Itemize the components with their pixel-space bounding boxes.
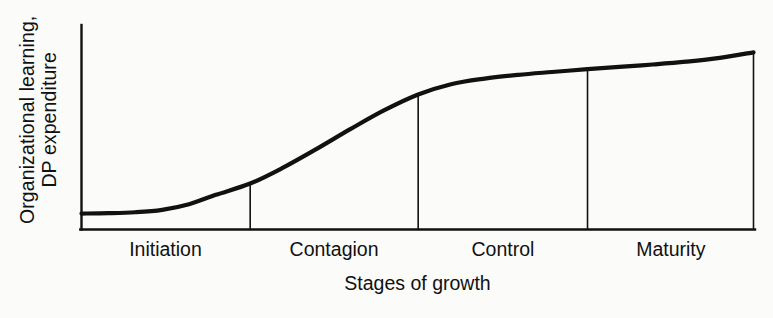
stage-label-contagion: Contagion <box>250 234 418 264</box>
stage-labels-row: Initiation Contagion Control Maturity <box>81 234 754 264</box>
y-axis-title-line-1: Organizational learning, <box>17 16 39 224</box>
stage-label-maturity: Maturity <box>588 234 754 264</box>
stage-label-contagion-text: Contagion <box>290 238 379 261</box>
stage-label-maturity-text: Maturity <box>636 238 705 261</box>
y-axis-title-line-2: DP expenditure <box>39 16 61 224</box>
y-axis-title: Organizational learning, DP expenditure <box>0 0 78 240</box>
stage-divider-lines <box>250 52 753 229</box>
stage-label-control-text: Control <box>472 238 535 261</box>
stage-label-initiation: Initiation <box>81 234 250 264</box>
plot-area <box>78 18 760 234</box>
stage-label-control: Control <box>418 234 588 264</box>
stage-label-initiation-text: Initiation <box>129 238 202 261</box>
stages-of-growth-chart: Organizational learning, DP expenditure … <box>0 0 773 318</box>
x-axis-title: Stages of growth <box>81 272 754 295</box>
